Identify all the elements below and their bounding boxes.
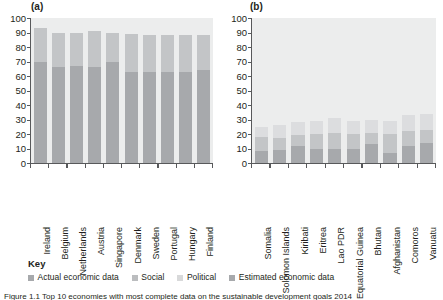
bar-lao-pdr [328, 118, 341, 163]
bar-segment-social [143, 35, 156, 71]
y-tick-mark [248, 62, 251, 63]
bar-segment-actual-economic-data [328, 149, 341, 163]
y-tick-mark [27, 134, 30, 135]
y-tick-label: 30 [221, 115, 247, 124]
y-tick-label: 40 [221, 101, 247, 110]
legend-swatch-icon [177, 275, 183, 281]
y-tick-label: 20 [221, 130, 247, 139]
legend-item-estimated-economic-data: Estimated economic data [229, 273, 334, 282]
x-axis-label-bhutan: Bhutan [374, 227, 383, 256]
bar-segment-political [383, 121, 396, 134]
bar-segment-actual-economic-data [347, 149, 360, 163]
y-tick-mark [248, 134, 251, 135]
bar-segment-political [347, 121, 360, 134]
y-tick-mark [248, 47, 251, 48]
x-axis-label-kiribati: Kiribati [301, 227, 310, 255]
panel-a-label: (a) [31, 1, 43, 12]
y-tick-label: 40 [0, 101, 26, 110]
bar-segment-actual-economic-data [70, 66, 83, 163]
bar-equatorial-guinea [347, 121, 360, 163]
y-tick-label: 90 [0, 28, 26, 37]
x-axis-label-somalia: Somalia [264, 227, 273, 260]
bar-segment-political [420, 114, 433, 130]
bar-segment-political [273, 125, 286, 138]
y-tick-label: 70 [0, 57, 26, 66]
chart-panel-a: (a) 0102030405060708090100 IrelandBelgiu… [0, 0, 216, 232]
bar-ireland [34, 28, 47, 163]
figure-container: (a) 0102030405060708090100 IrelandBelgiu… [0, 0, 443, 300]
legend-item-label: Estimated economic data [239, 273, 334, 282]
bar-segment-social [106, 33, 119, 62]
bar-segment-social [291, 135, 304, 145]
y-tick-label: 100 [0, 14, 26, 23]
bar-netherlands [70, 33, 83, 164]
y-tick-label: 50 [221, 86, 247, 95]
bar-denmark [125, 34, 138, 163]
bar-segment-actual-economic-data [291, 146, 304, 163]
bar-eritrea [310, 121, 323, 163]
x-axis-label-austria: Austria [97, 227, 106, 255]
x-axis-label-vanuatu: Vanuatu [429, 227, 438, 260]
bar-segment-social [273, 138, 286, 150]
legend-item-label: Political [187, 273, 216, 282]
legend-swatch-icon [28, 275, 34, 281]
bar-segment-social [34, 28, 47, 61]
panel-b-x-labels: SomaliaSolomon IslandsKiribatiEritreaLao… [216, 165, 443, 231]
legend-item-label: Social [141, 273, 164, 282]
bar-segment-actual-economic-data [106, 62, 119, 164]
y-tick-mark [27, 149, 30, 150]
bar-solomon-islands [273, 125, 286, 163]
bar-afghanistan [383, 121, 396, 163]
bar-segment-political [310, 121, 323, 134]
bar-bhutan [365, 120, 378, 164]
bar-segment-social [420, 130, 433, 143]
panel-b-bars [252, 18, 436, 163]
bar-segment-social [197, 35, 210, 70]
chart-panel-b: (b) 0102030405060708090100 SomaliaSolomo… [216, 0, 443, 232]
bar-comoros [402, 115, 415, 163]
y-tick-label: 100 [221, 14, 247, 23]
bar-segment-social [402, 131, 415, 145]
bar-segment-actual-economic-data [143, 72, 156, 163]
bar-segment-political [328, 118, 341, 132]
panel-b-plot-area [251, 18, 436, 164]
legend-item-political: Political [177, 273, 216, 282]
x-axis-label-ireland: Ireland [43, 227, 52, 255]
bar-segment-social [255, 137, 268, 152]
bar-segment-actual-economic-data [273, 150, 286, 163]
y-tick-label: 30 [0, 115, 26, 124]
x-axis-label-finland: Finland [206, 227, 215, 257]
y-tick-mark [27, 47, 30, 48]
bar-segment-actual-economic-data [420, 143, 433, 163]
bar-vanuatu [420, 114, 433, 163]
bar-segment-actual-economic-data [52, 67, 65, 163]
bar-segment-social [347, 134, 360, 148]
x-axis-label-sweden: Sweden [152, 227, 161, 260]
bar-segment-actual-economic-data [383, 153, 396, 163]
bar-segment-actual-economic-data [402, 146, 415, 163]
bar-segment-actual-economic-data [310, 149, 323, 163]
legend-items: Actual economic dataSocialPoliticalEstim… [28, 273, 438, 282]
bar-segment-social [179, 35, 192, 71]
bar-finland [197, 35, 210, 163]
bar-segment-social [365, 133, 378, 145]
bar-portugal [161, 35, 174, 163]
y-tick-label: 80 [0, 43, 26, 52]
panel-b-label: (b) [250, 1, 263, 12]
bar-belgium [52, 33, 65, 164]
bar-sweden [143, 35, 156, 163]
y-tick-mark [27, 18, 30, 19]
bar-segment-political [291, 122, 304, 135]
bar-segment-social [161, 35, 174, 71]
bar-segment-social [70, 33, 83, 66]
y-tick-mark [248, 91, 251, 92]
y-tick-mark [248, 18, 251, 19]
legend-swatch-icon [132, 275, 138, 281]
bar-segment-social [310, 134, 323, 148]
y-tick-mark [248, 76, 251, 77]
bar-somalia [255, 127, 268, 163]
bar-segment-political [255, 127, 268, 137]
bar-segment-actual-economic-data [125, 72, 138, 163]
bar-segment-actual-economic-data [179, 72, 192, 163]
y-tick-mark [27, 105, 30, 106]
